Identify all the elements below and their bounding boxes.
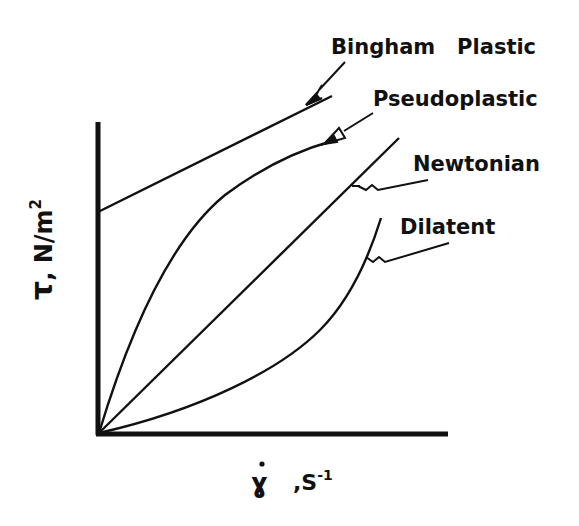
svg-text:,S-1: ,S-1 xyxy=(293,467,333,495)
svg-text:τ, N/m2: τ, N/m2 xyxy=(24,199,59,300)
svg-text:ɣ: ɣ xyxy=(251,468,268,498)
x-axis-dot-icon xyxy=(259,461,264,466)
dilatent-curve xyxy=(99,218,381,433)
pseudoplastic-leader-arrow-icon xyxy=(324,113,373,144)
x-axis-label: ɣ ,S-1 xyxy=(251,461,333,498)
dilatent-leader-arrow-icon xyxy=(366,243,449,262)
rheology-diagram: Bingham Plastic Pseudoplastic Newtonian … xyxy=(0,0,579,526)
pseudoplastic-label: Pseudoplastic xyxy=(373,87,538,111)
y-axis-exponent: 2 xyxy=(27,199,45,209)
x-axis-unit: ,S xyxy=(293,470,317,495)
x-axis-symbol: ɣ xyxy=(251,468,268,498)
y-axis-symbol: τ xyxy=(24,281,59,300)
newtonian-label: Newtonian xyxy=(413,152,540,176)
x-axis-exponent: -1 xyxy=(317,467,333,483)
y-axis-unit: , N/m xyxy=(30,210,58,281)
bingham-plastic-label: Bingham Plastic xyxy=(331,35,536,59)
pseudoplastic-curve xyxy=(99,141,332,433)
dilatent-label: Dilatent xyxy=(400,215,495,239)
newtonian-leader-arrow-icon xyxy=(352,180,428,190)
y-axis-label: τ, N/m2 xyxy=(24,199,59,300)
